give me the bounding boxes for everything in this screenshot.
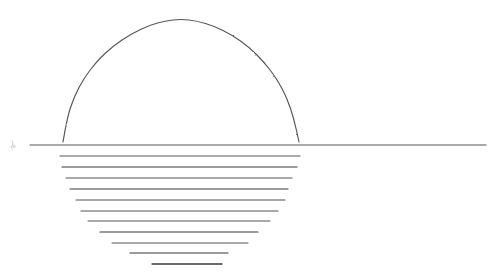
canvas-background	[0, 0, 501, 272]
artboard: Sunset over water line drawing	[0, 0, 501, 272]
line-drawing-canvas	[0, 0, 501, 272]
